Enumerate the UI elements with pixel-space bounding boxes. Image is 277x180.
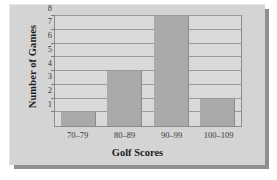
x-axis-tick-label: 70–79 [54,130,101,140]
x-axis-tick-label: 90–99 [148,130,195,140]
y-axis-tick-label: 5 [48,45,52,54]
x-axis-tick-label: 100–109 [195,130,242,140]
histogram-figure: Number of Games 12345678 70–7980–8990–99… [0,0,277,180]
y-axis-tick-label: 3 [48,72,52,81]
y-axis-tick-label: 2 [48,86,52,95]
bar-slot [195,16,242,126]
y-axis-tick-label: 4 [48,58,52,67]
bar[interactable] [107,71,142,126]
bar[interactable] [154,16,189,126]
y-axis-tick-label: 8 [48,3,52,12]
bar-slot [102,16,149,126]
bar[interactable] [200,99,235,127]
plot-area: 12345678 [54,15,242,127]
bar-slot [55,16,102,126]
y-axis-tick-label: 6 [48,31,52,40]
bars-group [55,16,241,126]
bar-slot [148,16,195,126]
x-axis-title: Golf Scores [10,147,265,158]
x-axis-tick-labels: 70–7980–8990–99100–109 [54,130,242,144]
x-axis-tick-label: 80–89 [101,130,148,140]
y-axis-tick-label: 7 [48,17,52,26]
bar[interactable] [61,112,96,126]
figure-card: Number of Games 12345678 70–7980–8990–99… [9,4,265,165]
chart-area: Number of Games 12345678 70–7980–8990–99… [10,5,265,165]
y-axis-tick-label: 1 [48,100,52,109]
y-axis-title: Number of Games [27,12,38,122]
